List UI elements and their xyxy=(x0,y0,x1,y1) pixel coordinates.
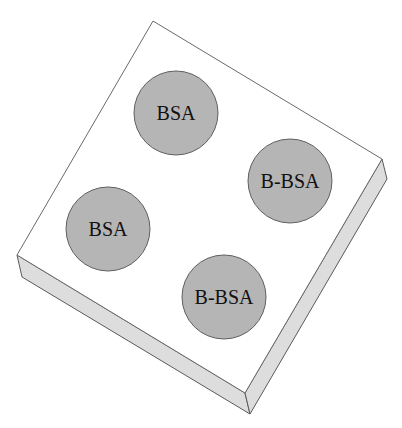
spot-label: B-BSA xyxy=(195,286,254,308)
spot-bbsa-bottom: B-BSA xyxy=(182,255,266,339)
spot-bsa-top: BSA xyxy=(134,71,218,155)
spot-label: BSA xyxy=(89,218,128,240)
spot-label: B-BSA xyxy=(261,170,320,192)
spot-label: BSA xyxy=(157,102,196,124)
plate-diagram: BSA B-BSA BSA B-BSA xyxy=(0,0,402,428)
spot-bbsa-right: B-BSA xyxy=(248,139,332,223)
spot-bsa-left: BSA xyxy=(66,187,150,271)
